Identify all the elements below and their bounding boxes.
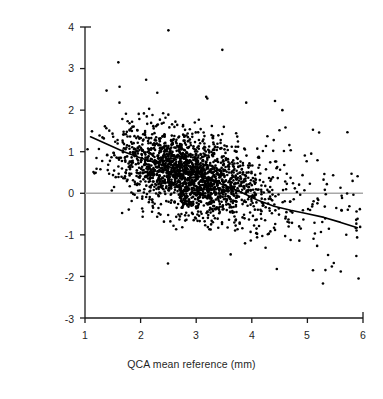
scatter-point [257, 208, 260, 211]
scatter-point [189, 193, 192, 196]
scatter-point [181, 163, 184, 166]
scatter-point [230, 171, 233, 174]
scatter-point [148, 165, 151, 168]
scatter-point [187, 214, 190, 217]
scatter-point [169, 181, 172, 184]
scatter-point [148, 171, 151, 174]
scatter-point [221, 196, 224, 199]
scatter-point [190, 144, 193, 147]
scatter-point [145, 184, 148, 187]
scatter-point [196, 188, 199, 191]
scatter-point [185, 143, 188, 146]
scatter-point [279, 168, 282, 171]
scatter-point [256, 147, 259, 150]
scatter-point [170, 201, 173, 204]
scatter-point [271, 193, 274, 196]
scatter-point [141, 169, 144, 172]
scatter-point [147, 140, 150, 143]
scatter-point [226, 226, 229, 229]
scatter-point [192, 203, 195, 206]
scatter-point [268, 207, 271, 210]
scatter-point [299, 227, 302, 230]
scatter-point [156, 91, 159, 94]
scatter-point [140, 137, 143, 140]
scatter-point [126, 144, 129, 147]
scatter-point [194, 141, 197, 144]
scatter-point [178, 193, 181, 196]
scatter-point [209, 201, 212, 204]
scatter-point [172, 182, 175, 185]
scatter-point [223, 148, 226, 151]
scatter-point [324, 269, 327, 272]
scatter-point [316, 245, 319, 248]
scatter-point [240, 185, 243, 188]
scatter-point [160, 170, 163, 173]
scatter-point [162, 121, 165, 124]
scatter-point [130, 156, 133, 159]
scatter-point [147, 142, 150, 145]
scatter-point [160, 167, 163, 170]
scatter-point [174, 146, 177, 149]
scatter-point [321, 221, 324, 224]
scatter-point [149, 142, 152, 145]
scatter-point [159, 150, 162, 153]
scatter-point [289, 177, 292, 180]
scatter-point [167, 163, 170, 166]
scatter-point [287, 225, 290, 228]
scatter-point [150, 164, 153, 167]
scatter-point [114, 140, 117, 143]
scatter-point [162, 112, 165, 115]
scatter-point [286, 183, 289, 186]
scatter-point [202, 138, 205, 141]
scatter-point [232, 190, 235, 193]
scatter-point [225, 203, 228, 206]
scatter-point [249, 182, 252, 185]
scatter-point [141, 216, 144, 219]
scatter-point [268, 191, 271, 194]
scatter-point [138, 145, 141, 148]
scatter-point [105, 89, 108, 92]
scatter-point [216, 184, 219, 187]
scatter-point [204, 169, 207, 172]
scatter-point [199, 196, 202, 199]
scatter-point [252, 205, 255, 208]
scatter-point [136, 183, 139, 186]
scatter-point [332, 174, 335, 177]
scatter-point [260, 210, 263, 213]
scatter-point [175, 216, 178, 219]
scatter-point [175, 140, 178, 143]
scatter-point [155, 188, 158, 191]
scatter-point [146, 175, 149, 178]
scatter-point [207, 226, 210, 229]
scatter-point [260, 213, 263, 216]
scatter-point [219, 205, 222, 208]
scatter-point [124, 160, 127, 163]
scatter-point [121, 160, 124, 163]
scatter-point [188, 198, 191, 201]
scatter-point [191, 154, 194, 157]
scatter-point [201, 170, 204, 173]
scatter-point [214, 186, 217, 189]
scatter-point [159, 118, 162, 121]
scatter-point [154, 149, 157, 152]
scatter-point [180, 148, 183, 151]
scatter-point [176, 164, 179, 167]
scatter-point [233, 215, 236, 218]
scatter-point [180, 145, 183, 148]
scatter-point [145, 115, 148, 118]
scatter-point [169, 220, 172, 223]
scatter-point [152, 180, 155, 183]
scatter-point [216, 142, 219, 145]
scatter-point [294, 187, 297, 190]
scatter-point [187, 168, 190, 171]
scatter-point [218, 169, 221, 172]
scatter-point [129, 161, 132, 164]
scatter-point [197, 206, 200, 209]
scatter-point [200, 187, 203, 190]
scatter-point [162, 160, 165, 163]
scatter-point [348, 205, 351, 208]
scatter-point [131, 160, 134, 163]
scatter-point [110, 189, 113, 192]
scatter-point [152, 189, 155, 192]
scatter-point [222, 160, 225, 163]
